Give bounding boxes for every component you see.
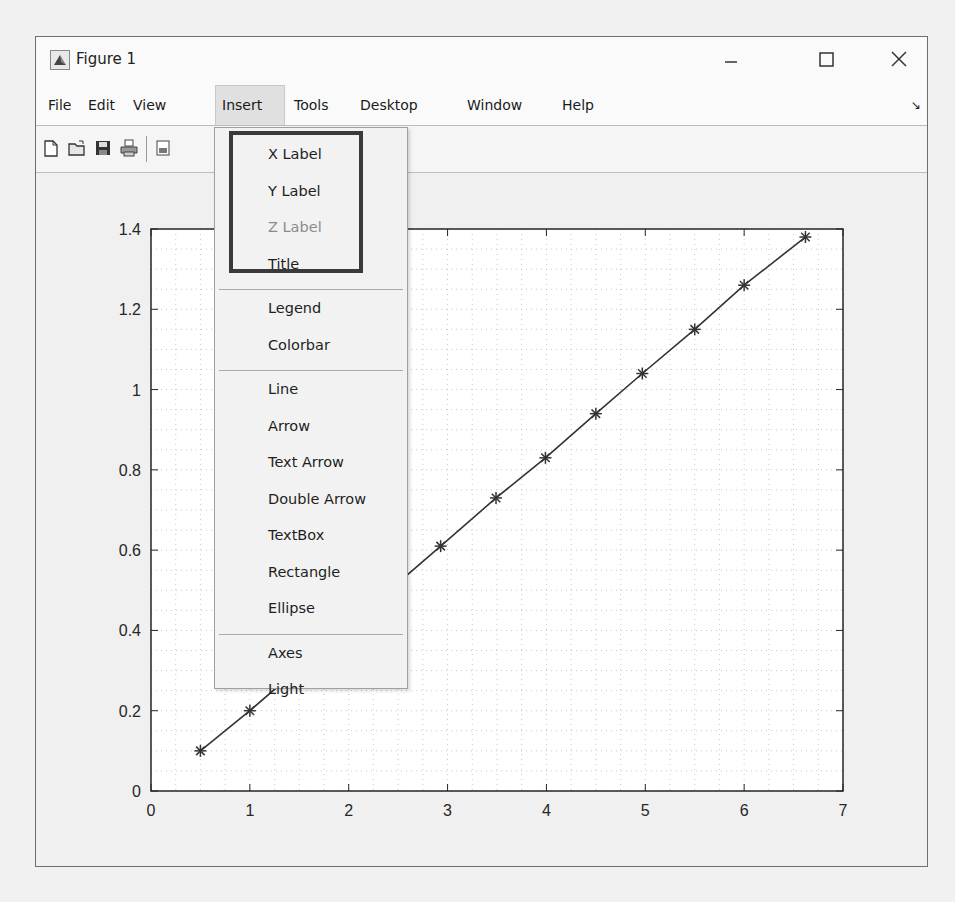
x-tick-label: 4 [542, 802, 551, 819]
data-point-marker[interactable] [689, 323, 701, 335]
data-point-marker[interactable] [244, 705, 256, 717]
menu-item-light[interactable]: Light [268, 677, 304, 701]
menu-item-double-arrow[interactable]: Double Arrow [268, 487, 366, 511]
x-tick-label: 6 [740, 802, 749, 819]
data-point-marker[interactable] [636, 368, 648, 380]
y-tick-label: 0.8 [119, 462, 141, 479]
menu-item-line[interactable]: Line [268, 377, 298, 401]
data-point-marker[interactable] [194, 745, 206, 757]
data-point-marker[interactable] [738, 279, 750, 291]
plot-axes[interactable]: 0123456700.20.40.60.811.21.4 [1, 1, 955, 902]
menu-item-textbox[interactable]: TextBox [268, 523, 324, 547]
figure-canvas: 0123456700.20.40.60.811.21.4 [36, 173, 927, 866]
y-tick-label: 0.4 [119, 622, 141, 639]
data-point-marker[interactable] [539, 452, 551, 464]
menu-item-rectangle[interactable]: Rectangle [268, 560, 340, 584]
y-tick-label: 1 [132, 382, 141, 399]
y-tick-label: 1.4 [119, 221, 141, 238]
menu-item-ellipse[interactable]: Ellipse [268, 596, 315, 620]
menu-separator [219, 289, 403, 290]
x-tick-label: 0 [147, 802, 156, 819]
y-tick-label: 0.2 [119, 703, 141, 720]
x-tick-label: 5 [641, 802, 650, 819]
menu-separator [219, 370, 403, 371]
x-tick-label: 3 [443, 802, 452, 819]
x-tick-label: 7 [839, 802, 848, 819]
menu-item-colorbar[interactable]: Colorbar [268, 333, 330, 357]
figure-window: Figure 1 File Edit View Insert Tools Des… [35, 36, 928, 867]
y-tick-label: 1.2 [119, 301, 141, 318]
y-tick-label: 0.6 [119, 542, 141, 559]
label-items-highlight-box [229, 131, 363, 273]
menu-item-axes[interactable]: Axes [268, 641, 303, 665]
menu-item-text-arrow[interactable]: Text Arrow [268, 450, 344, 474]
x-tick-label: 2 [344, 802, 353, 819]
data-point-marker[interactable] [799, 231, 811, 243]
data-point-marker[interactable] [435, 540, 447, 552]
y-tick-label: 0 [132, 783, 141, 800]
x-tick-label: 1 [245, 802, 254, 819]
menu-separator [219, 634, 403, 635]
data-point-marker[interactable] [590, 408, 602, 420]
menu-item-legend[interactable]: Legend [268, 296, 321, 320]
data-point-marker[interactable] [490, 492, 502, 504]
menu-item-arrow[interactable]: Arrow [268, 414, 310, 438]
